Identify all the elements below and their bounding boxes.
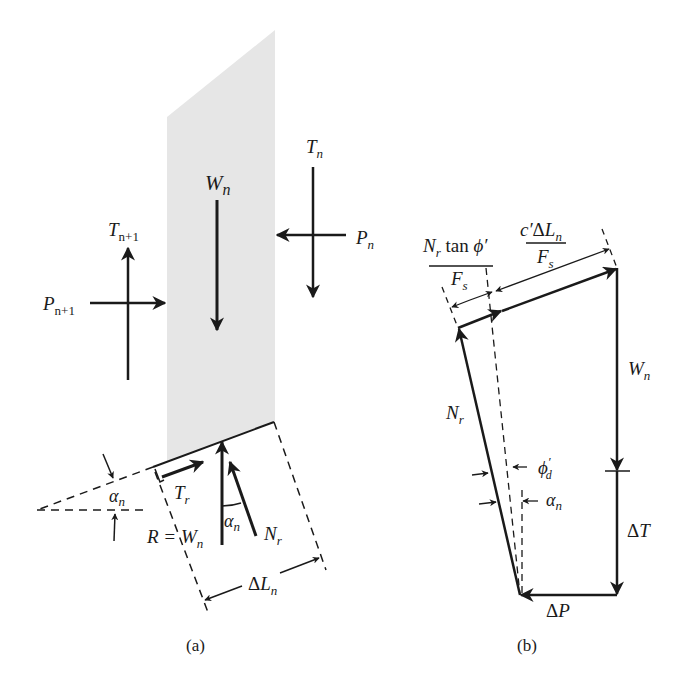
alpha-angle-label: αn xyxy=(224,511,240,534)
soil-slice xyxy=(167,30,275,462)
svg-text:Fs: Fs xyxy=(450,268,468,293)
panel-a-caption: (a) xyxy=(186,636,205,655)
dim-arrow-right xyxy=(280,558,319,573)
b-phi-d-label: ϕ′d xyxy=(538,454,553,482)
panel-b-caption: (b) xyxy=(517,636,537,655)
Pn1-label: Pn+1 xyxy=(42,293,75,318)
b-friction-arrow xyxy=(458,311,501,328)
panel-b-force-polygon: Nr tan ϕ′ Fs c′ΔLn Fs ϕ′d αn Wn Nr ΔT ΔP… xyxy=(422,219,651,655)
svg-text:c′ΔLn: c′ΔLn xyxy=(520,219,562,244)
svg-text:Fs: Fs xyxy=(536,246,554,271)
base-extension-dashed xyxy=(37,467,153,510)
Nr-label: Nr xyxy=(263,523,283,548)
Tn-label: Tn xyxy=(306,136,323,161)
b-Nr-arrow xyxy=(459,329,520,595)
b-Nr-label: Nr xyxy=(445,402,465,427)
alpha-base-label: αn xyxy=(109,486,125,509)
alpha-angle-arc xyxy=(222,503,241,506)
Tr-label: Tr xyxy=(174,482,191,507)
dim-line-right xyxy=(274,422,326,570)
panel-a-slice: αn ΔLn Tr R = Wn Nr αn Wn Tn Pn Tn+1 xyxy=(37,30,374,655)
b-deltaP-label: ΔP xyxy=(546,600,570,621)
b-alpha-arrow-left xyxy=(479,502,496,504)
b-dim-friction-left xyxy=(452,300,470,307)
b-dash-left-top xyxy=(442,287,458,328)
slice-force-diagram: αn ΔLn Tr R = Wn Nr αn Wn Tn Pn Tn+1 xyxy=(0,0,693,699)
delta-Ln-label: ΔLn xyxy=(248,573,277,598)
b-deltaT-label: ΔT xyxy=(627,520,651,541)
alpha-arrow-top xyxy=(103,454,113,478)
Pn-label: Pn xyxy=(355,227,374,252)
alpha-arrow-bottom xyxy=(114,514,115,541)
Tn1-label: Tn+1 xyxy=(108,219,139,244)
svg-text:Nr tan ϕ′: Nr tan ϕ′ xyxy=(422,235,488,260)
R-equals-Wn-label: R = Wn xyxy=(146,526,203,551)
dim-arrow-left xyxy=(205,586,242,600)
b-phi-arrow-left xyxy=(472,473,488,475)
b-friction-label: Nr tan ϕ′ Fs xyxy=(422,235,493,293)
b-dash-right-top xyxy=(602,229,617,268)
b-alpha-label: αn xyxy=(546,490,562,513)
b-cohesion-label: c′ΔLn Fs xyxy=(520,219,566,271)
Tr-arrow xyxy=(162,462,203,477)
b-dash-mid-top xyxy=(486,268,520,595)
b-Wn-label: Wn xyxy=(628,358,650,383)
b-cohesion-arrow xyxy=(502,269,616,311)
